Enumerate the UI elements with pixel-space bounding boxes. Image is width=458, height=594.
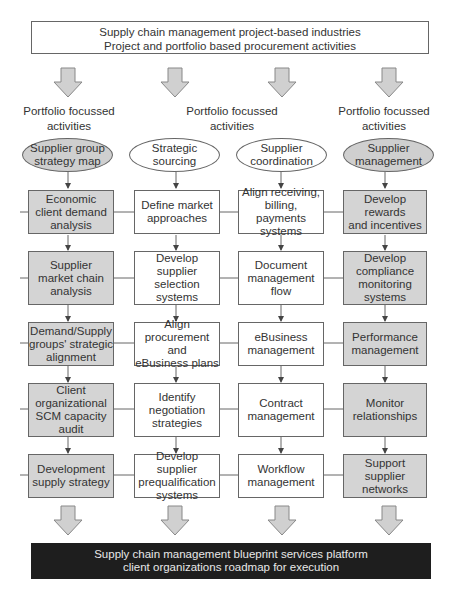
header-box: Supply chain management project-based in… — [31, 21, 429, 54]
step-economic-client-demand-analysis: Economicclient demandanalysis — [28, 190, 114, 234]
step-workflow-management: Workflowmanagement — [238, 454, 324, 498]
step-develop-compliance-monitoring: Developcompliancemonitoringsystems — [343, 251, 427, 305]
oval-supplier-group-strategy-map: Supplier groupstrategy map — [22, 138, 113, 172]
column-header-2: Portfolio focussed activities — [182, 104, 282, 134]
step-align-receiving-billing: Align receiving,billing, paymentssystems — [238, 190, 324, 234]
block-arrow-down-icon — [268, 506, 296, 535]
step-performance-management: Performancemanagement — [343, 322, 427, 366]
step-supplier-market-chain-analysis: Suppliermarket chainanalysis — [28, 251, 114, 305]
footer-line-2: client organizations roadmap for executi… — [31, 561, 431, 574]
oval-strategic-sourcing: Strategicsourcing — [129, 138, 220, 172]
block-arrow-down-icon — [54, 68, 82, 97]
step-document-management-flow: Documentmanagementflow — [238, 251, 324, 305]
step-demand-supply-alignment: Demand/Supplygroups' strategicalignment — [28, 322, 114, 366]
column-header-3: Portfolio focussed activities — [334, 104, 434, 134]
oval-supplier-management: Suppliermanagement — [343, 138, 434, 172]
step-develop-supplier-selection-systems: Develop supplierselectionsystems — [134, 251, 220, 305]
block-arrow-down-icon — [375, 506, 403, 535]
step-develop-rewards-incentives: Develop rewardsand incentives — [343, 190, 427, 234]
step-contract-management: Contractmanagement — [238, 383, 324, 437]
step-support-supplier-networks: Support suppliernetworks — [343, 454, 427, 498]
column-header-1: Portfolio focussed activities — [23, 104, 115, 134]
step-develop-supplier-prequalification: Develop supplierprequalificationsystems — [134, 454, 220, 498]
footer-box: Supply chain management blueprint servic… — [31, 543, 431, 579]
step-monitor-relationships: Monitorrelationships — [343, 383, 427, 437]
step-ebusiness-management: eBusinessmanagement — [238, 322, 324, 366]
step-define-market-approaches: Define marketapproaches — [134, 190, 220, 234]
step-development-supply-strategy: Developmentsupply strategy — [28, 454, 114, 498]
step-align-procurement-ebusiness: Alignprocurement andeBusiness plans — [134, 322, 220, 366]
block-arrow-down-icon — [268, 68, 296, 97]
footer-line-1: Supply chain management blueprint servic… — [31, 548, 431, 561]
oval-supplier-coordination: Suppliercoordination — [236, 138, 327, 172]
step-identify-negotiation-strategies: Identifynegotiationstrategies — [134, 383, 220, 437]
step-client-scm-capacity-audit: ClientorganizationalSCM capacityaudit — [28, 383, 114, 437]
block-arrow-down-icon — [161, 68, 189, 97]
header-line-2: Project and portfolio based procurement … — [32, 39, 428, 53]
block-arrow-down-icon — [54, 506, 82, 535]
block-arrow-down-icon — [161, 506, 189, 535]
header-line-1: Supply chain management project-based in… — [32, 25, 428, 39]
block-arrow-down-icon — [375, 68, 403, 97]
